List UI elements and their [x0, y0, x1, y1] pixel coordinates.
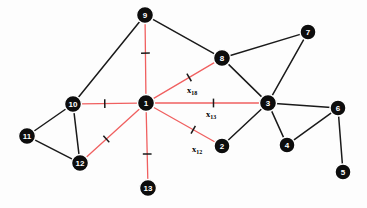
- edge-9-8: [151, 18, 216, 54]
- edge-10-11: [33, 108, 68, 132]
- node-label-1: 1: [144, 99, 149, 108]
- node-label-13: 13: [144, 184, 153, 193]
- edge-4-6: [292, 112, 332, 141]
- node-label-7: 7: [306, 28, 311, 37]
- edge-12-1: [85, 108, 141, 159]
- network-graph: x18x13x12 12345678910111213: [0, 0, 367, 208]
- edge-10-1: [80, 103, 139, 104]
- edge-3-2: [227, 108, 263, 142]
- node-2[interactable]: 2: [214, 138, 230, 154]
- edge-3-4: [271, 109, 284, 139]
- edge-10-12: [74, 111, 79, 156]
- edge-9-10: [77, 20, 140, 98]
- node-11[interactable]: 11: [19, 128, 36, 145]
- node-label-9: 9: [143, 11, 148, 20]
- node-label-10: 10: [69, 100, 78, 109]
- node-13[interactable]: 13: [140, 180, 157, 197]
- edge-3-6: [275, 103, 332, 107]
- edge-1-8: [152, 62, 216, 100]
- edge-7-3: [271, 38, 304, 97]
- tick-mark-1-2: [191, 126, 195, 134]
- node-6[interactable]: 6: [330, 100, 346, 116]
- node-label-12: 12: [76, 159, 85, 168]
- edge-9-1: [145, 22, 146, 96]
- nodes-layer: 12345678910111213: [19, 7, 352, 197]
- edge-labels-layer: x18x13x12: [187, 85, 216, 155]
- node-5[interactable]: 5: [335, 164, 351, 180]
- node-1[interactable]: 1: [138, 95, 155, 112]
- edge-11-12: [33, 139, 74, 160]
- label-x18: x18: [187, 85, 197, 96]
- edge-8-7: [229, 34, 302, 56]
- node-label-8: 8: [220, 54, 225, 63]
- node-label-5: 5: [341, 168, 346, 177]
- node-8[interactable]: 8: [214, 50, 231, 67]
- node-4[interactable]: 4: [279, 137, 295, 153]
- edge-6-5: [339, 114, 343, 165]
- node-label-2: 2: [220, 142, 225, 151]
- node-label-11: 11: [23, 132, 32, 141]
- node-3[interactable]: 3: [260, 95, 277, 112]
- node-label-3: 3: [266, 99, 271, 108]
- node-label-6: 6: [336, 104, 341, 113]
- node-label-4: 4: [285, 141, 290, 150]
- node-7[interactable]: 7: [300, 24, 316, 40]
- label-x12: x12: [192, 144, 202, 155]
- tick-mark-1-8: [187, 74, 191, 82]
- edge-13-1: [146, 110, 148, 181]
- node-9[interactable]: 9: [137, 7, 154, 24]
- node-10[interactable]: 10: [65, 96, 82, 113]
- diagram-canvas: x18x13x12 12345678910111213: [0, 0, 367, 208]
- node-12[interactable]: 12: [72, 155, 89, 172]
- edge-8-3: [227, 63, 263, 98]
- label-x13: x13: [206, 109, 216, 120]
